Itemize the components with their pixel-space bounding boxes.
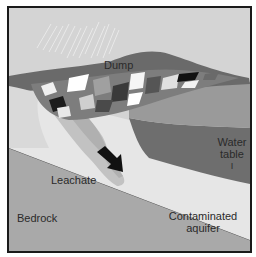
leachate-label: Leachate [51, 174, 96, 186]
water-table-marker: I [214, 160, 250, 172]
bedrock-label: Bedrock [17, 212, 57, 224]
water-table-label: Water table I [214, 136, 250, 172]
contaminated-aquifer-label: Contaminated aquifer [155, 210, 251, 234]
diagram-frame: Dump Water table I Leachate Bedrock Cont… [7, 6, 252, 253]
dump-label: Dump [104, 59, 133, 71]
